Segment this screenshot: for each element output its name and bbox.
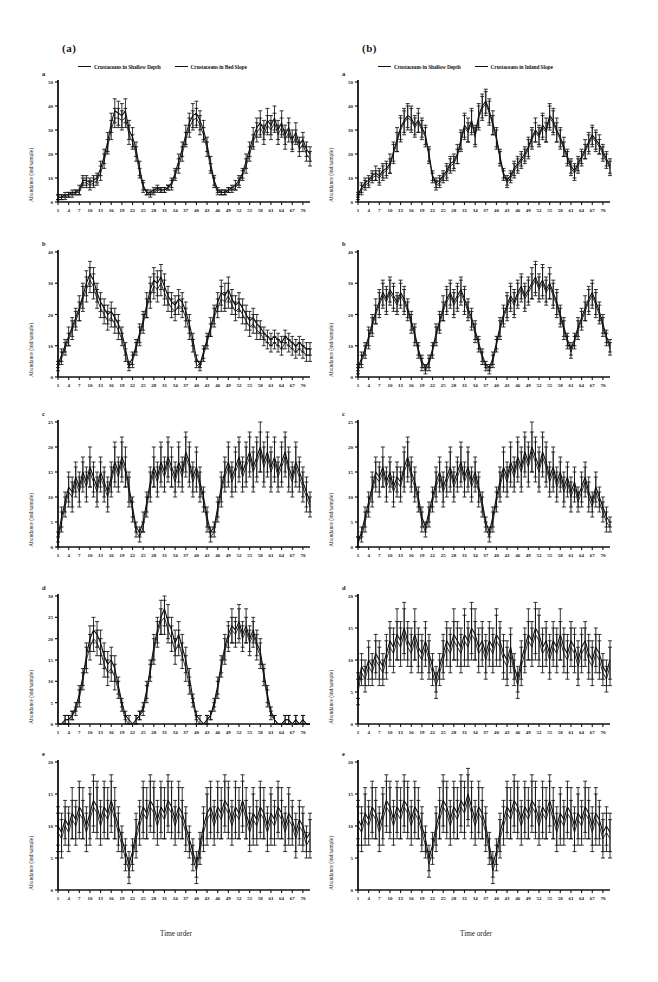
svg-text:46: 46 bbox=[515, 553, 521, 558]
svg-text:70: 70 bbox=[600, 383, 606, 388]
svg-text:52: 52 bbox=[237, 896, 243, 901]
svg-text:67: 67 bbox=[290, 208, 296, 213]
legend-label: Crustaceans in Inland Slope bbox=[491, 62, 553, 70]
svg-text:13: 13 bbox=[98, 383, 104, 388]
svg-text:30: 30 bbox=[348, 128, 354, 133]
legend-item-a-0: Crustaceans in Shallow Depth bbox=[78, 63, 161, 69]
svg-text:4: 4 bbox=[367, 553, 370, 558]
svg-text:5: 5 bbox=[351, 690, 354, 695]
svg-text:0: 0 bbox=[51, 545, 54, 550]
svg-text:46: 46 bbox=[215, 896, 221, 901]
svg-text:1: 1 bbox=[57, 383, 60, 388]
svg-text:5: 5 bbox=[351, 520, 354, 525]
svg-text:55: 55 bbox=[547, 208, 553, 213]
svg-text:7: 7 bbox=[78, 553, 81, 558]
svg-text:13: 13 bbox=[98, 208, 104, 213]
svg-text:19: 19 bbox=[119, 383, 125, 388]
svg-text:34: 34 bbox=[473, 896, 479, 901]
subplot-tag-a3: c bbox=[42, 410, 45, 417]
svg-text:34: 34 bbox=[473, 383, 479, 388]
svg-text:50: 50 bbox=[348, 80, 354, 85]
svg-text:64: 64 bbox=[579, 896, 585, 901]
svg-text:25: 25 bbox=[141, 383, 147, 388]
svg-text:67: 67 bbox=[590, 383, 596, 388]
svg-text:52: 52 bbox=[537, 208, 543, 213]
svg-text:28: 28 bbox=[151, 383, 157, 388]
svg-text:49: 49 bbox=[526, 730, 532, 735]
svg-text:20: 20 bbox=[348, 152, 354, 157]
svg-text:13: 13 bbox=[398, 208, 404, 213]
svg-text:40: 40 bbox=[48, 104, 54, 109]
svg-text:50: 50 bbox=[48, 80, 54, 85]
svg-text:7: 7 bbox=[378, 208, 381, 213]
subplot-a2: 0102030401471013161922252831343740434649… bbox=[36, 248, 316, 395]
svg-text:30: 30 bbox=[48, 594, 54, 599]
series-1 bbox=[56, 432, 312, 547]
subplot-tag-a1: a bbox=[42, 70, 45, 77]
svg-text:43: 43 bbox=[505, 383, 511, 388]
svg-text:43: 43 bbox=[205, 383, 211, 388]
svg-text:67: 67 bbox=[590, 896, 596, 901]
svg-text:0: 0 bbox=[51, 888, 54, 893]
svg-text:10: 10 bbox=[387, 208, 393, 213]
svg-text:16: 16 bbox=[109, 730, 115, 735]
svg-text:64: 64 bbox=[579, 208, 585, 213]
svg-text:28: 28 bbox=[151, 730, 157, 735]
svg-text:22: 22 bbox=[430, 383, 436, 388]
svg-text:52: 52 bbox=[237, 383, 243, 388]
subplot-b1: 0102030405014710131619222528313437404346… bbox=[336, 78, 616, 220]
svg-text:20: 20 bbox=[48, 152, 54, 157]
svg-text:16: 16 bbox=[409, 553, 415, 558]
svg-text:37: 37 bbox=[483, 208, 489, 213]
svg-text:7: 7 bbox=[378, 553, 381, 558]
svg-text:1: 1 bbox=[357, 383, 360, 388]
svg-text:49: 49 bbox=[526, 896, 532, 901]
column-tag-b-text: (b) bbox=[362, 42, 377, 54]
svg-text:16: 16 bbox=[109, 553, 115, 558]
svg-text:70: 70 bbox=[300, 896, 306, 901]
svg-text:7: 7 bbox=[378, 730, 381, 735]
svg-text:52: 52 bbox=[537, 383, 543, 388]
svg-text:0: 0 bbox=[351, 545, 354, 550]
svg-text:1: 1 bbox=[357, 896, 360, 901]
svg-text:25: 25 bbox=[141, 208, 147, 213]
svg-text:10: 10 bbox=[387, 896, 393, 901]
svg-text:52: 52 bbox=[237, 730, 243, 735]
svg-text:52: 52 bbox=[237, 553, 243, 558]
subplot-tag-a4: d bbox=[42, 584, 46, 591]
svg-text:10: 10 bbox=[87, 730, 93, 735]
svg-text:43: 43 bbox=[205, 553, 211, 558]
svg-text:28: 28 bbox=[451, 553, 457, 558]
svg-text:37: 37 bbox=[483, 553, 489, 558]
svg-text:40: 40 bbox=[194, 896, 200, 901]
subplot-a5: 0510152014710131619222528313437404346495… bbox=[36, 758, 316, 908]
svg-text:67: 67 bbox=[290, 730, 296, 735]
y-axis-title-a2: Abundance (ind/sample) bbox=[28, 323, 34, 377]
y-axis-title-a4: Abundance (ind/sample) bbox=[28, 670, 34, 724]
svg-text:40: 40 bbox=[494, 896, 500, 901]
svg-text:5: 5 bbox=[51, 520, 54, 525]
series-1 bbox=[356, 432, 612, 547]
svg-text:40: 40 bbox=[194, 208, 200, 213]
y-axis-title-a3: Abundance (ind/sample) bbox=[28, 493, 34, 547]
svg-text:1: 1 bbox=[357, 730, 360, 735]
svg-text:34: 34 bbox=[173, 208, 179, 213]
svg-text:40: 40 bbox=[494, 208, 500, 213]
svg-text:55: 55 bbox=[547, 896, 553, 901]
svg-text:16: 16 bbox=[109, 896, 115, 901]
svg-text:20: 20 bbox=[48, 760, 54, 765]
y-axis-title-b3: Abundance (ind/sample) bbox=[328, 493, 334, 547]
subplot-a4: 0510152025301471013161922252831343740434… bbox=[36, 592, 316, 742]
svg-text:25: 25 bbox=[441, 553, 447, 558]
legend-item-b-0: Crustaceans in Shallow Depth bbox=[378, 63, 461, 69]
svg-text:7: 7 bbox=[378, 383, 381, 388]
svg-text:58: 58 bbox=[258, 553, 264, 558]
svg-text:25: 25 bbox=[348, 420, 354, 425]
svg-text:7: 7 bbox=[78, 208, 81, 213]
svg-text:31: 31 bbox=[162, 730, 168, 735]
svg-text:4: 4 bbox=[67, 896, 70, 901]
svg-text:1: 1 bbox=[57, 896, 60, 901]
series-0 bbox=[56, 99, 312, 200]
svg-text:0: 0 bbox=[51, 722, 54, 727]
legend-item-b-1: Crustaceans in Inland Slope bbox=[475, 63, 553, 69]
